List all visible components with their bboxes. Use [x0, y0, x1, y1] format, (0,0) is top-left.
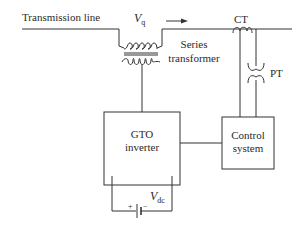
series-transformer-primary-coil	[124, 43, 157, 49]
control-label-1: Control	[231, 129, 265, 141]
sssc-diagram: Transmission line Vq CT Series transform…	[0, 0, 306, 232]
series-transformer-secondary-coil	[122, 59, 160, 65]
gto-label-1: GTO	[131, 128, 153, 140]
series-transformer-label-2: transformer	[168, 52, 220, 64]
ct-coil	[233, 27, 252, 33]
transmission-line-label: Transmission line	[22, 11, 100, 23]
current-direction-arrow	[166, 19, 188, 24]
transmission-line-left	[22, 29, 124, 48]
ct-label: CT	[234, 13, 248, 25]
vdc-label: Vdc	[150, 189, 165, 205]
gto-label-2: inverter	[125, 141, 160, 153]
battery-minus-label: −	[143, 202, 148, 211]
series-transformer-label-1: Series	[181, 38, 208, 50]
battery-plus-label: +	[128, 202, 133, 211]
transmission-line-right	[157, 29, 292, 48]
vq-label: Vq	[134, 11, 145, 27]
control-label-2: system	[233, 142, 264, 154]
pt-label: PT	[270, 67, 283, 79]
